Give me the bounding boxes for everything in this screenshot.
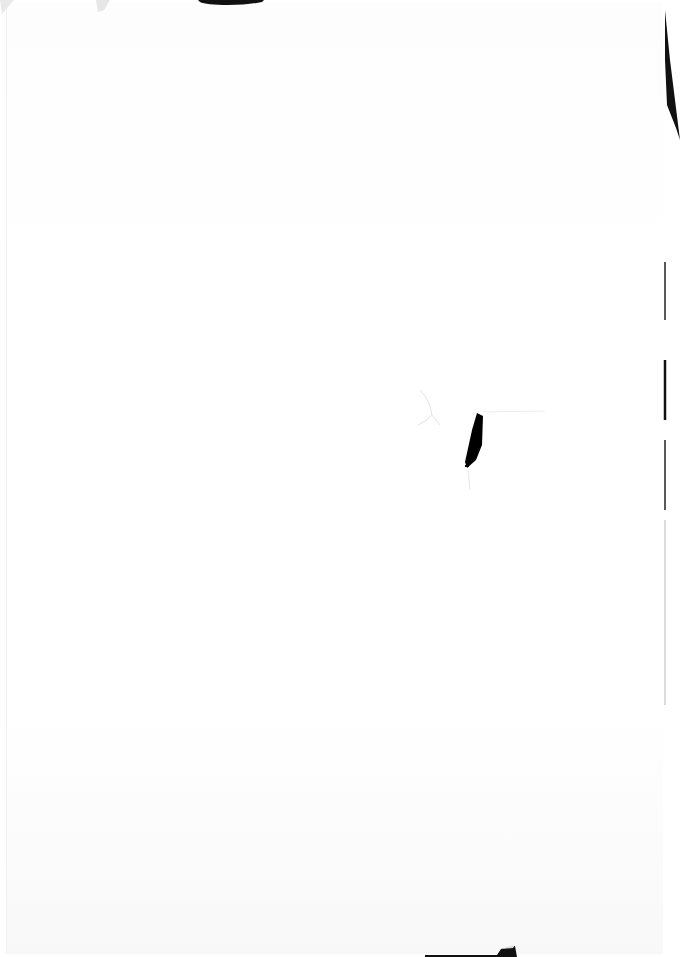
paper-sheet — [6, 2, 663, 954]
bottom-edge-mark — [425, 944, 520, 957]
top-edge-mark — [198, 0, 264, 8]
center-hole-mark — [410, 380, 560, 530]
right-edge-shadow — [656, 0, 682, 720]
corner-fold-mark — [0, 0, 120, 20]
scanned-page — [0, 0, 682, 957]
